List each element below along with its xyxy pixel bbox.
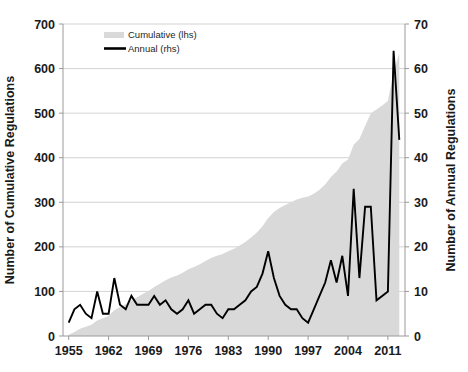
y-axis-right-tick-label: 50	[414, 107, 428, 121]
y-axis-left-tick-label: 200	[34, 240, 55, 254]
y-axis-right-tick-label: 60	[414, 62, 428, 76]
x-axis-tick-label: 1955	[55, 344, 83, 358]
x-axis-tick-label: 1990	[254, 344, 282, 358]
y-axis-left-tick-label: 400	[34, 151, 55, 165]
x-axis-tick-label: 1976	[174, 344, 202, 358]
y-axis-right-title: Number of Annual Regulations	[444, 89, 458, 272]
y-axis-left-tick-label: 700	[34, 18, 55, 32]
legend-label: Cumulative (lhs)	[128, 29, 197, 40]
y-axis-right-tick-label: 0	[414, 330, 421, 344]
x-axis-tick-label: 2004	[334, 344, 362, 358]
y-axis-left-tick-label: 100	[34, 285, 55, 299]
y-axis-right-tick-label: 40	[414, 151, 428, 165]
chart-container: 195519621969197619831990199720042011 010…	[0, 0, 468, 372]
x-axis-tick-labels: 195519621969197619831990199720042011	[55, 344, 402, 358]
y-axis-right-tick-label: 30	[414, 196, 428, 210]
y-axis-right-tick-label: 70	[414, 18, 428, 32]
x-axis-tick-label: 1969	[135, 344, 163, 358]
y-axis-left-title: Number of Cumulative Regulations	[3, 76, 17, 284]
y-axis-left-tick-label: 300	[34, 196, 55, 210]
x-axis-tick-label: 1997	[294, 344, 322, 358]
y-axis-left-tick-label: 600	[34, 62, 55, 76]
x-axis-tick-label: 2011	[374, 344, 401, 358]
y-axis-left-tick-label: 0	[48, 330, 55, 344]
x-axis-tick-label: 1983	[214, 344, 242, 358]
legend-swatch-cumulative	[104, 32, 124, 38]
y-axis-right-tick-label: 20	[414, 240, 428, 254]
legend-label: Annual (rhs)	[128, 43, 180, 54]
x-axis-tick-label: 1962	[95, 344, 123, 358]
y-axis-left-tick-label: 500	[34, 107, 55, 121]
regulations-dual-axis-chart: 195519621969197619831990199720042011 010…	[0, 0, 468, 372]
y-axis-right-tick-label: 10	[414, 285, 428, 299]
